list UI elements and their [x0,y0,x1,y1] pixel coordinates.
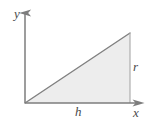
y-axis-label: y [14,7,20,20]
geometry-diagram [0,0,148,128]
base-length-label-h: h [75,105,82,118]
figure-canvas: y x h r [0,0,148,128]
x-axis-label: x [133,106,139,119]
height-length-label-r: r [133,60,138,73]
